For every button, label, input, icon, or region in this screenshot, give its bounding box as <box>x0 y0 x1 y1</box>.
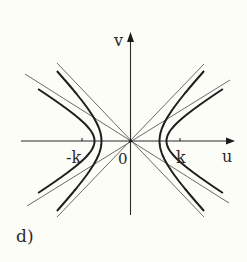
shallow-asymptote-1 <box>25 74 229 203</box>
u-axis-arrow-icon <box>226 138 235 145</box>
hyperbola-diagram: v u 0 -k k d) <box>0 0 247 262</box>
origin-point <box>129 139 132 142</box>
tick-label-minus-k: -k <box>66 148 81 167</box>
asymptote-lines <box>25 63 230 217</box>
origin-label: 0 <box>118 150 128 168</box>
panel-label: d) <box>16 226 34 246</box>
shallow-asymptote-2 <box>27 80 230 206</box>
v-axis-label: v <box>113 31 123 50</box>
axes <box>21 39 228 215</box>
tick-label-k: k <box>176 148 186 167</box>
u-axis-label: u <box>222 147 232 166</box>
v-axis-arrow-icon <box>127 32 134 42</box>
